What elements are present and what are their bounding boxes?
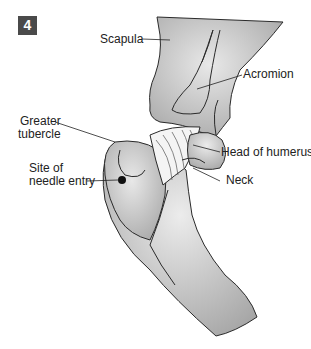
label-greater-tubercle-2: tubercle	[18, 128, 61, 141]
label-scapula: Scapula	[100, 33, 143, 46]
label-head-of-humerus: Head of humerus	[221, 146, 311, 159]
label-neck: Neck	[226, 174, 253, 187]
label-acromion: Acromion	[243, 68, 294, 81]
figure-number-badge: 4	[18, 16, 37, 35]
humeral-head-shape	[188, 132, 226, 169]
needle-entry-dot	[118, 176, 126, 184]
label-site-2: needle entry	[29, 175, 95, 188]
